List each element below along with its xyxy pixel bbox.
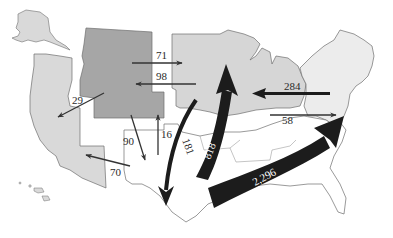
flow-label-16: 16 bbox=[161, 128, 173, 140]
flow-label-58: 58 bbox=[282, 114, 294, 126]
alaska-region bbox=[12, 10, 70, 50]
flow-label-90: 90 bbox=[123, 135, 135, 147]
flow-label-71: 71 bbox=[156, 49, 167, 61]
mountain-region bbox=[80, 28, 164, 118]
us-flow-map: 71 98 29 90 16 70 181 818 284 58 2,296 bbox=[0, 0, 393, 238]
flow-label-284: 284 bbox=[284, 80, 301, 92]
hawaii-region bbox=[19, 182, 50, 201]
northeast-region bbox=[300, 30, 374, 124]
flow-label-70: 70 bbox=[110, 166, 122, 178]
flow-label-29: 29 bbox=[72, 94, 84, 106]
south-region bbox=[124, 116, 346, 222]
flow-label-98: 98 bbox=[156, 70, 168, 82]
